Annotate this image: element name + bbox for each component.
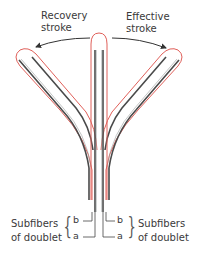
recovery-stroke-label-2: stroke (41, 22, 72, 33)
left-subfiber-b: b (73, 215, 79, 225)
right-cilium (101, 49, 182, 200)
leader-lines (83, 212, 115, 237)
effective-arrow (112, 38, 166, 48)
recovery-arrow (36, 38, 90, 47)
left-cilium (16, 49, 97, 200)
recovery-stroke-label-1: Recovery (41, 10, 87, 21)
center-cilium (91, 33, 107, 212)
right-subfibers-label-1: Subfibers (138, 218, 185, 229)
left-brace: { (63, 214, 71, 238)
right-brace: } (127, 214, 135, 238)
effective-stroke-label-2: stroke (126, 23, 157, 34)
left-subfibers-label-1: Subfibers (11, 218, 58, 229)
cilium-diagram: Recovery stroke Effective stroke Subfibe… (0, 0, 198, 259)
effective-stroke-label-1: Effective (126, 11, 170, 22)
right-subfibers-label-2: of doublet (138, 232, 189, 243)
right-subfiber-a: a (117, 231, 123, 241)
left-subfiber-a: a (73, 231, 79, 241)
right-subfiber-b: b (117, 215, 123, 225)
left-subfibers-label-2: of doublet (11, 232, 62, 243)
